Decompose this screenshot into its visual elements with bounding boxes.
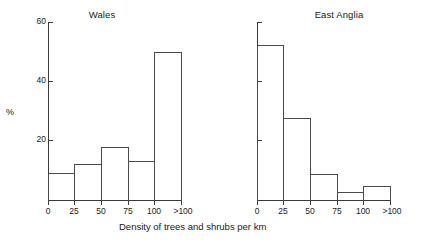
- y-tick-20: [49, 140, 53, 141]
- y-tick-60: [49, 22, 53, 23]
- x-tick-over100: [390, 201, 391, 205]
- bar-east-75-100: [337, 192, 364, 201]
- bar-wales-50-75: [101, 147, 129, 201]
- y-tick-label-20: 20: [24, 134, 46, 144]
- y-tick-label-60: 60: [24, 16, 46, 26]
- y-tick-60: [258, 22, 262, 23]
- bar-east-0-25: [257, 45, 284, 201]
- bar-wales-25-50: [74, 164, 102, 201]
- panel-wales: Wales % 60 40 20 0 25 50: [0, 0, 220, 247]
- x-tick-50: [310, 201, 311, 205]
- x-tick-label-over100: >100: [166, 206, 200, 216]
- plot-area-east-anglia: 0 25 50 75 100 >100: [219, 0, 439, 247]
- x-tick-75: [337, 201, 338, 205]
- x-tick-25: [283, 201, 284, 205]
- bar-wales-75-100: [128, 161, 155, 201]
- panel-east-anglia: East Anglia 0 25 50 75 100 >100: [219, 0, 439, 247]
- bar-wales-0-25: [48, 173, 75, 201]
- x-tick-25: [74, 201, 75, 205]
- x-tick-100: [363, 201, 364, 205]
- y-tick-label-40: 40: [24, 75, 46, 85]
- bar-east-25-50: [283, 118, 311, 201]
- x-tick-100: [154, 201, 155, 205]
- bar-east-over100: [363, 186, 391, 201]
- y-tick-40: [49, 81, 53, 82]
- x-axis-title: Density of trees and shrubs per km: [119, 221, 266, 232]
- x-tick-0: [257, 201, 258, 205]
- plot-area-wales: 60 40 20 0 25 50 75 100 >100: [0, 0, 220, 247]
- x-tick-0: [48, 201, 49, 205]
- x-tick-50: [101, 201, 102, 205]
- bar-wales-over100: [154, 52, 182, 201]
- x-tick-75: [128, 201, 129, 205]
- x-tick-over100: [181, 201, 182, 205]
- x-tick-label-over100: >100: [375, 206, 409, 216]
- histogram-figure: Wales % 60 40 20 0 25 50: [0, 0, 439, 247]
- bar-east-50-75: [310, 174, 338, 201]
